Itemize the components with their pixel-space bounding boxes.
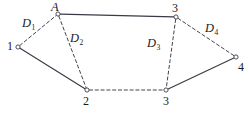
- edge-b3-n4: [168, 58, 234, 89]
- edges-layer: [20, 14, 234, 90]
- node-label-t3: 3: [172, 2, 178, 14]
- node-label-n1: 1: [7, 40, 13, 52]
- node-marker-n2[interactable]: [85, 88, 89, 92]
- node-marker-t3[interactable]: [174, 15, 178, 19]
- distance-label-base: D: [147, 36, 156, 50]
- node-marker-b3[interactable]: [164, 88, 168, 92]
- edge-t3-b3: [166, 19, 175, 87]
- distance-label-D4: D4: [205, 22, 218, 35]
- node-label-A: A: [51, 1, 59, 14]
- distance-label-D3: D3: [147, 37, 160, 50]
- node-label-b3: 3: [163, 95, 169, 107]
- node-label-n4: 4: [238, 61, 244, 73]
- distance-label-subscript: 2: [80, 38, 84, 47]
- distance-label-subscript: 4: [215, 28, 219, 37]
- distance-label-D2: D2: [70, 32, 83, 45]
- edge-A-n2: [59, 16, 86, 88]
- node-marker-n1[interactable]: [16, 45, 20, 49]
- distance-label-base: D: [205, 21, 214, 35]
- distance-label-subscript: 1: [32, 23, 36, 32]
- distance-label-base: D: [70, 31, 79, 45]
- graph-svg: [0, 0, 249, 115]
- distance-label-D1: D1: [22, 17, 35, 30]
- diagram-canvas: A12334 D1D2D3D4: [0, 0, 249, 115]
- node-label-n2: 2: [83, 95, 89, 107]
- edge-A-t3: [60, 14, 173, 17]
- edge-n1-n2: [20, 48, 85, 88]
- distance-label-subscript: 3: [157, 43, 161, 52]
- distance-label-base: D: [22, 16, 31, 30]
- node-marker-n4[interactable]: [234, 55, 238, 59]
